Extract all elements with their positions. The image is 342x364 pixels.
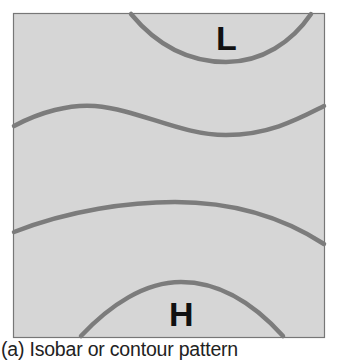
map-panel bbox=[14, 14, 325, 338]
high-pressure-label: H bbox=[169, 295, 194, 333]
figure-caption: (a) Isobar or contour pattern bbox=[1, 338, 238, 361]
contour-diagram: L H bbox=[0, 0, 342, 364]
low-pressure-label: L bbox=[216, 19, 237, 57]
